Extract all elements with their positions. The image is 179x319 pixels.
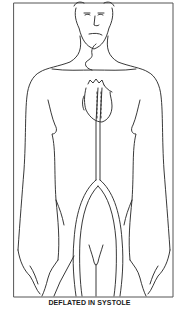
figure-frame [14,3,173,297]
pelvis-outline [89,245,103,296]
anatomical-figure [0,0,179,300]
torso-outline [18,36,170,260]
figure-caption: DEFLATED IN SYSTOLE [0,299,179,306]
aorta-catheter [54,88,123,296]
head-outline [74,2,114,49]
hands-outline [18,250,170,296]
